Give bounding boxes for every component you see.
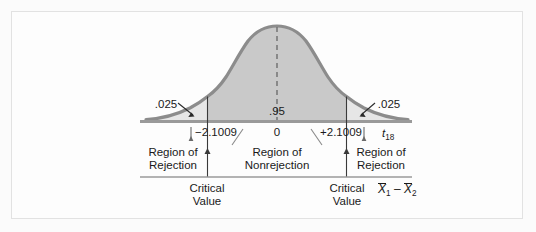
- right-boundary-up-arrow: [344, 148, 350, 154]
- region-rejection-left-line1: Region of: [148, 146, 197, 159]
- region-rejection-left-line2: Rejection: [148, 159, 197, 172]
- critical-value-left-label: Critical Value: [189, 182, 224, 207]
- critical-value-left-line2: Value: [189, 195, 224, 208]
- region-rejection-left-label: Region of Rejection: [148, 146, 197, 171]
- critical-value-right-label: Critical Value: [329, 182, 364, 207]
- region-rejection-right-label: Region of Rejection: [356, 146, 405, 171]
- statistic-subscript-1: 1: [386, 189, 391, 198]
- center-tick-label: 0: [274, 126, 280, 139]
- region-rejection-right-line2: Rejection: [356, 159, 405, 172]
- right-tail-area-label: .025: [378, 98, 400, 111]
- center-area-label: .95: [269, 105, 285, 118]
- critical-value-right-line2: Value: [329, 195, 364, 208]
- distribution-plot: [0, 0, 536, 232]
- axis-variable-label: t18: [382, 127, 394, 145]
- region-nonrejection-line2: Nonrejection: [245, 159, 310, 172]
- right-critical-tick-label: +2.1009: [320, 126, 362, 139]
- statistic-x1: X: [378, 183, 386, 195]
- region-nonrejection-label: Region of Nonrejection: [245, 146, 310, 171]
- axis-variable-subscript: 18: [385, 133, 394, 142]
- statistic-minus-sign: –: [394, 182, 401, 196]
- statistic-axis-label: X1 – X2: [378, 183, 417, 201]
- critical-value-left-line1: Critical: [189, 182, 224, 195]
- t-distribution-figure: .025 .025 .95 −2.1009 0 +2.1009 t18 Regi…: [0, 0, 536, 232]
- left-critical-tick-label: −2.1009: [195, 126, 237, 139]
- region-nonrejection-line1: Region of: [245, 146, 310, 159]
- left-tail-area-label: .025: [155, 98, 177, 111]
- statistic-subscript-2: 2: [412, 189, 417, 198]
- left-boundary-up-arrow: [205, 148, 211, 154]
- statistic-x2: X: [404, 183, 412, 195]
- critical-value-right-line1: Critical: [329, 182, 364, 195]
- region-rejection-right-line1: Region of: [356, 146, 405, 159]
